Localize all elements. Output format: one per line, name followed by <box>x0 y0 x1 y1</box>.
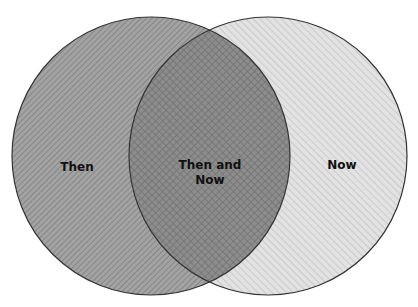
label-then: Then <box>60 160 93 175</box>
label-now: Now <box>327 158 356 173</box>
label-intersection-line2: Now <box>179 173 242 188</box>
venn-diagram <box>0 0 418 307</box>
label-intersection: Then and Now <box>179 158 242 188</box>
label-intersection-line1: Then and <box>179 158 242 173</box>
